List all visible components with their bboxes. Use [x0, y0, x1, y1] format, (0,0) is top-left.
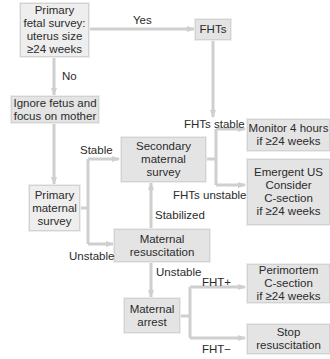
- fhts-node: FHTs: [195, 19, 231, 40]
- edge-label-fhts-unstable: FHTs unstable: [173, 189, 247, 202]
- emergent-us-node: Emergent US Consider C-section if ≥24 we…: [247, 159, 330, 225]
- edge-label-unstable-down: Unstable: [156, 266, 201, 279]
- edge-label-fht-plus: FHT+: [202, 276, 231, 289]
- primary-maternal-survey-node: Primary maternal survey: [29, 185, 80, 231]
- stop-resuscitation-node: Stop resuscitation: [247, 324, 330, 354]
- edge-label-fht-minus: FHT−: [202, 343, 231, 356]
- edge-label-stabilized: Stabilized: [155, 209, 205, 222]
- edge-label-unstable-left: Unstable: [69, 250, 114, 263]
- ignore-fetus-node: Ignore fetus and focus on mother: [11, 96, 99, 123]
- edge-label-yes: Yes: [133, 14, 152, 27]
- edge-label-stable: Stable: [80, 144, 113, 157]
- maternal-arrest-node: Maternal arrest: [124, 298, 180, 333]
- maternal-resuscitation-node: Maternal resuscitation: [114, 229, 210, 262]
- secondary-maternal-survey-node: Secondary maternal survey: [121, 137, 206, 182]
- primary-fetal-survey-node: Primary fetal survey: uterus size ≥24 we…: [20, 3, 89, 57]
- edge-label-no: No: [62, 70, 77, 83]
- edge-label-fhts-stable: FHTs stable: [184, 118, 245, 131]
- perimortem-node: Perimortem C-section if ≥24 weeks: [247, 264, 330, 303]
- monitor-node: Monitor 4 hours if ≥24 weeks: [247, 119, 330, 151]
